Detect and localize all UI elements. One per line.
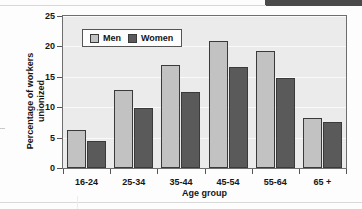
- y-axis-title-line-2: unionized: [36, 80, 46, 122]
- x-tick-mark: [157, 169, 158, 174]
- y-tick-label: 5: [29, 133, 55, 143]
- legend-entry-men: Men: [90, 33, 121, 43]
- bar-women-16-24: [87, 141, 106, 168]
- y-tick-label: 0: [29, 163, 55, 173]
- bar-men-35-44: [161, 65, 180, 168]
- y-tick-label: 25: [29, 11, 55, 21]
- chart-legend: Men Women: [82, 29, 182, 47]
- legend-entry-women: Women: [128, 33, 173, 43]
- x-tick-label: 16-24: [75, 177, 98, 187]
- x-tick-label: 35-44: [169, 177, 192, 187]
- y-tick-label: 20: [29, 41, 55, 51]
- bar-women-65+: [323, 122, 342, 168]
- legend-swatch-men-icon: [90, 34, 99, 43]
- y-axis-title: Percentage of workers unionized: [25, 31, 47, 171]
- bar-chart: Percentage of workers unionized 05101520…: [0, 0, 362, 209]
- bar-men-45-54: [209, 41, 228, 168]
- bar-women-25-34: [134, 108, 153, 168]
- bar-women-35-44: [181, 92, 200, 168]
- legend-swatch-women-icon: [128, 34, 137, 43]
- bar-women-45-54: [229, 67, 248, 168]
- gridline: [63, 107, 346, 108]
- x-tick-label: 55-64: [264, 177, 287, 187]
- y-tick-label: 10: [29, 102, 55, 112]
- gridline: [63, 77, 346, 78]
- x-tick-mark: [63, 169, 64, 174]
- x-tick-mark: [252, 169, 253, 174]
- y-axis-title-wrap: Percentage of workers unionized: [14, 38, 38, 148]
- gridline: [63, 16, 346, 17]
- legend-label-men: Men: [103, 33, 121, 43]
- x-tick-label: 25-34: [122, 177, 145, 187]
- x-tick-mark: [205, 169, 206, 174]
- x-tick-mark: [299, 169, 300, 174]
- bar-men-65+: [303, 118, 322, 168]
- bar-women-55-64: [276, 78, 295, 168]
- x-axis-title: Age group: [62, 188, 347, 198]
- bar-men-55-64: [256, 51, 275, 168]
- x-tick-label: 65 +: [314, 177, 332, 187]
- y-tick-label: 15: [29, 72, 55, 82]
- legend-label-women: Women: [141, 33, 173, 43]
- x-tick-mark: [346, 169, 347, 174]
- bar-men-16-24: [67, 130, 86, 168]
- page-canvas: Percentage of workers unionized 05101520…: [0, 0, 362, 209]
- bar-men-25-34: [114, 90, 133, 168]
- x-tick-label: 45-54: [217, 177, 240, 187]
- x-tick-mark: [110, 169, 111, 174]
